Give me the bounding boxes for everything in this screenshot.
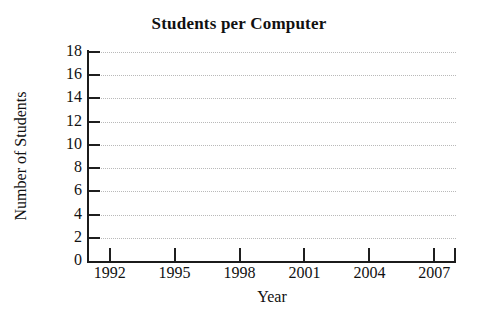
x-axis-tick-label: 2001 [269,264,339,282]
x-axis-end-tick [454,248,456,261]
gridline [88,122,456,123]
x-axis-tick [174,248,176,261]
y-axis-tick-label: 10 [52,136,82,152]
y-axis-title: Number of Students [12,91,30,220]
y-axis-tick [89,97,100,99]
y-axis-tick-label-container: 8 [52,159,82,175]
gridline [88,238,456,239]
y-axis-tick-label: 2 [52,229,82,245]
x-axis-title: Year [88,288,456,306]
chart-figure: Students per Computer Number of Students… [0,0,478,328]
plot-background [88,52,456,261]
y-axis-tick-label: 14 [52,89,82,105]
x-axis-tick-label: 1995 [140,264,210,282]
y-axis-tick-label-container: 2 [52,229,82,245]
gridline [88,98,456,99]
y-axis-tick-label: 12 [52,113,82,129]
y-axis-tick-label-container: 10 [52,136,82,152]
gridline [88,75,456,76]
x-axis-tick-label: 1992 [75,264,145,282]
gridline [88,168,456,169]
y-axis-tick-label-container: 16 [52,66,82,82]
x-axis-line [87,261,456,263]
plot-area [88,52,456,261]
y-axis-title-container: Number of Students [8,48,34,263]
y-axis-tick-label-container: 4 [52,206,82,222]
gridline [88,215,456,216]
y-axis-tick [89,144,100,146]
y-axis-tick-label: 18 [52,43,82,59]
y-axis-tick [89,190,100,192]
y-axis-tick-label-container: 14 [52,89,82,105]
x-axis-tick-label: 1998 [205,264,275,282]
chart-title: Students per Computer [0,14,478,34]
y-axis-tick-label-container: 18 [52,43,82,59]
y-axis-tick-label: 4 [52,206,82,222]
gridline [88,145,456,146]
y-axis-tick [89,121,100,123]
gridline [88,191,456,192]
y-axis-tick-label: 6 [52,182,82,198]
x-axis-tick [368,248,370,261]
y-axis-tick-label-container: 6 [52,182,82,198]
y-axis-line [87,50,89,263]
x-axis-tick [239,248,241,261]
y-axis-tick [89,237,100,239]
y-axis-tick-label: 8 [52,159,82,175]
y-axis-tick [89,51,100,53]
y-axis-tick [89,74,100,76]
x-axis-tick [303,248,305,261]
y-axis-tick-label: 16 [52,66,82,82]
y-axis-tick [89,167,100,169]
x-axis-tick [109,248,111,261]
x-axis-tick-label: 2004 [334,264,404,282]
x-axis-tick-label: 2007 [399,264,469,282]
y-axis-tick [89,214,100,216]
x-axis-tick [433,248,435,261]
gridline [88,52,456,53]
y-axis-tick-label-container: 12 [52,113,82,129]
